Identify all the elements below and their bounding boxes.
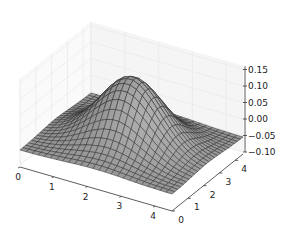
z-tick-label: 0.15	[248, 65, 268, 75]
y-tick-label: 3	[225, 177, 231, 187]
surface-plot-canvas: 0123401234−0.10−0.050.000.050.100.15	[0, 0, 288, 225]
y-tick-label: 2	[210, 190, 216, 200]
x-tick-label: 0	[15, 172, 21, 182]
z-tick-label: 0.00	[248, 114, 268, 124]
y-tick-label: 0	[178, 215, 184, 225]
z-tick-label: −0.10	[248, 147, 276, 157]
z-tick-label: −0.05	[248, 131, 276, 141]
x-tick-label: 2	[83, 192, 89, 202]
z-tick-label: 0.05	[248, 98, 268, 108]
y-tick-label: 1	[194, 202, 200, 212]
x-tick-label: 4	[150, 211, 156, 221]
y-tick-label: 4	[241, 164, 247, 174]
z-tick-label: 0.10	[248, 81, 268, 91]
x-tick-label: 1	[49, 182, 55, 192]
x-tick-label: 3	[116, 201, 122, 211]
surface-plot-figure: 0123401234−0.10−0.050.000.050.100.15	[0, 0, 288, 225]
